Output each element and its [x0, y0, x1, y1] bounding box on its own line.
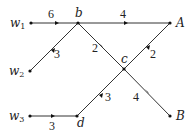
weight-w2-b: 3	[54, 47, 60, 61]
label-w1: w1	[10, 16, 25, 31]
weight-c-A: 2	[150, 47, 156, 61]
label-w3: w3	[9, 109, 24, 124]
label-A: A	[175, 16, 185, 30]
weight-b-A: 4	[120, 7, 126, 21]
node-w2	[28, 69, 31, 72]
graph-diagram: w1 w2 w3 b c d A B 6 4 3 2 2 3 3 4	[0, 0, 196, 140]
edge-d-c	[77, 69, 124, 116]
node-c	[122, 67, 125, 70]
edge-c-B	[124, 69, 170, 116]
weight-w1-b: 6	[48, 7, 54, 21]
weight-d-c: 3	[105, 90, 111, 104]
label-c: c	[121, 52, 128, 66]
node-B	[168, 114, 171, 117]
weight-c-B: 4	[133, 90, 139, 104]
weight-w3-d: 3	[49, 119, 55, 133]
node-w3	[28, 114, 31, 117]
arrow-icon	[55, 21, 59, 25]
edge-b-c	[78, 23, 124, 69]
label-w2: w2	[9, 64, 24, 79]
edge-c-A	[124, 23, 170, 69]
label-d: d	[77, 116, 85, 130]
node-b	[76, 21, 79, 24]
weight-b-c: 2	[92, 41, 98, 55]
arrow-icon	[124, 21, 128, 25]
label-b: b	[75, 6, 83, 20]
node-A	[168, 21, 171, 24]
label-B: B	[175, 109, 185, 123]
arrow-icon	[99, 43, 103, 48]
arrow-icon	[51, 114, 55, 118]
node-w1	[29, 21, 32, 24]
